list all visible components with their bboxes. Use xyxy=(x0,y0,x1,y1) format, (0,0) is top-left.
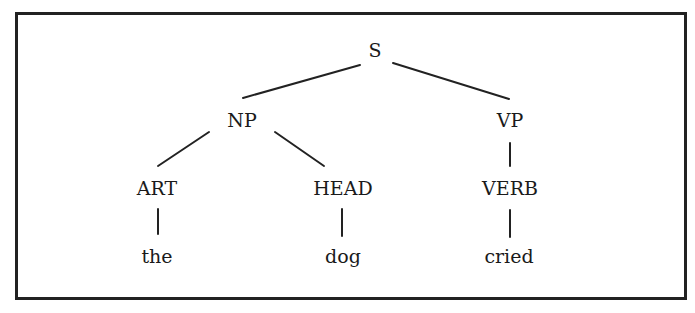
node-np: NP xyxy=(227,111,256,130)
leaf-dog: dog xyxy=(325,247,361,266)
node-s: S xyxy=(368,41,381,60)
edge-np-art xyxy=(158,132,209,166)
edge-np-head xyxy=(275,132,324,166)
edge-s-np xyxy=(243,65,360,98)
edge-s-vp xyxy=(393,63,509,99)
node-art: ART xyxy=(137,179,177,198)
leaf-the: the xyxy=(141,247,172,266)
node-vp: VP xyxy=(497,111,524,130)
leaf-cried: cried xyxy=(484,247,533,266)
node-head: HEAD xyxy=(313,179,372,198)
node-verb: VERB xyxy=(482,179,538,198)
